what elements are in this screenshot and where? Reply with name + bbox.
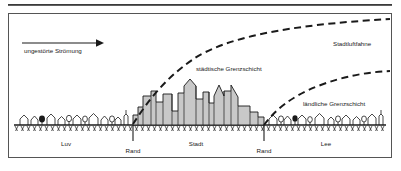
urban-boundary-layer-diagram: ungestörte Strömung: [0, 0, 401, 171]
region-label-leeward: Lee: [321, 140, 332, 147]
region-label-edge-left: Rand: [126, 147, 141, 154]
region-label-edge-right: Rand: [257, 147, 272, 154]
region-label-windward: Luv: [61, 140, 72, 147]
urban-boundary-layer-label: städtische Grenzschicht: [196, 65, 262, 72]
top-rule: [8, 4, 392, 6]
diagram-canvas: ungestörte Strömung: [0, 0, 401, 171]
flow-arrow-label: ungestörte Strömung: [24, 47, 82, 54]
rural-boundary-layer-label: ländliche Grenzschicht: [303, 100, 366, 107]
region-label-city: Stadt: [189, 140, 204, 147]
urban-plume-label: Stadtluftfahne: [333, 40, 372, 47]
